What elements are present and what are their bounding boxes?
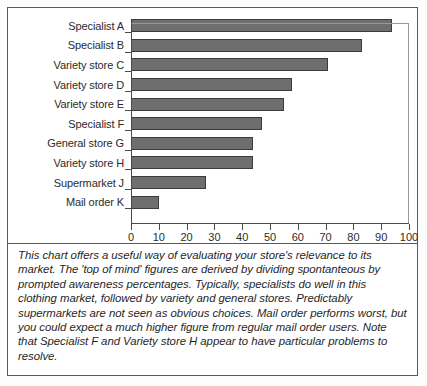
x-axis-tick — [159, 224, 160, 230]
chart-row: Specialist A — [12, 16, 412, 36]
category-label: Mail order K — [12, 196, 131, 208]
bar — [131, 58, 328, 71]
x-axis-tick-label: 30 — [208, 231, 220, 243]
bar-track — [131, 16, 410, 36]
bar — [131, 156, 253, 169]
x-axis-tick — [270, 224, 271, 230]
x-axis-tick-label: 100 — [400, 231, 418, 243]
x-axis-tick — [242, 224, 243, 230]
y-axis-tick — [125, 169, 131, 170]
category-label: Specialist F — [12, 118, 131, 130]
bar — [131, 98, 284, 111]
bar-track — [131, 192, 410, 212]
chart-row: Mail order K — [12, 192, 412, 212]
bar-track — [131, 114, 410, 134]
y-axis-tick — [125, 130, 131, 131]
x-axis-tick — [326, 224, 327, 230]
x-axis-tick — [214, 224, 215, 230]
x-axis-tick-label: 60 — [292, 231, 304, 243]
x-axis-tick-label: 70 — [319, 231, 331, 243]
category-label: Supermarket J — [12, 177, 131, 189]
chart-row: Variety store D — [12, 75, 412, 95]
x-axis-tick — [353, 224, 354, 230]
x-axis-tick-label: 20 — [180, 231, 192, 243]
y-axis-tick — [125, 208, 131, 209]
x-axis-tick — [187, 224, 188, 230]
bar — [131, 78, 292, 91]
x-axis-tick-label: 50 — [264, 231, 276, 243]
y-axis-tick — [125, 52, 131, 53]
y-axis-tick — [125, 91, 131, 92]
bar-track — [131, 36, 410, 56]
bar-track — [131, 173, 410, 193]
chart-row: Specialist B — [12, 36, 412, 56]
chart-row: General store G — [12, 134, 412, 154]
chart-row: Specialist F — [12, 114, 412, 134]
chart-rows-container: Specialist ASpecialist BVariety store CV… — [12, 16, 412, 214]
bar-track — [131, 94, 410, 114]
bar-track — [131, 75, 410, 95]
bar — [131, 137, 253, 150]
x-axis-tick-label: 90 — [375, 231, 387, 243]
bar-chart: Specialist ASpecialist BVariety store CV… — [7, 7, 418, 239]
y-axis-tick — [125, 32, 131, 33]
bar — [131, 117, 262, 130]
category-label: Variety store C — [12, 59, 131, 71]
category-label: General store G — [12, 137, 131, 149]
y-axis-tick — [125, 110, 131, 111]
bar-track — [131, 153, 410, 173]
category-label: Variety store D — [12, 79, 131, 91]
y-axis-tick — [125, 71, 131, 72]
x-axis-tick — [298, 224, 299, 230]
category-label: Variety store H — [12, 157, 131, 169]
x-axis-tick — [409, 224, 410, 230]
bar — [131, 176, 206, 189]
x-axis-tick-label: 0 — [128, 231, 134, 243]
bar-track — [131, 55, 410, 75]
chart-row: Variety store H — [12, 153, 412, 173]
chart-row: Supermarket J — [12, 173, 412, 193]
chart-row: Variety store E — [12, 94, 412, 114]
bar — [131, 19, 392, 32]
y-axis-tick — [125, 150, 131, 151]
category-label: Variety store E — [12, 98, 131, 110]
category-label: Specialist A — [12, 20, 131, 32]
x-axis-tick-label: 10 — [153, 231, 165, 243]
note-separator — [7, 243, 418, 244]
category-label: Specialist B — [12, 39, 131, 51]
bar — [131, 39, 362, 52]
chart-row: Variety store C — [12, 55, 412, 75]
bar — [131, 196, 159, 209]
bar-track — [131, 134, 410, 154]
x-axis-tick — [131, 224, 132, 230]
x-axis-tick-label: 80 — [347, 231, 359, 243]
chart-page: Specialist ASpecialist BVariety store CV… — [0, 0, 427, 386]
chart-note-text: This chart offers a useful way of evalua… — [18, 248, 407, 363]
x-axis-tick — [381, 224, 382, 230]
x-axis-tick-label: 40 — [236, 231, 248, 243]
y-axis-tick — [125, 189, 131, 190]
